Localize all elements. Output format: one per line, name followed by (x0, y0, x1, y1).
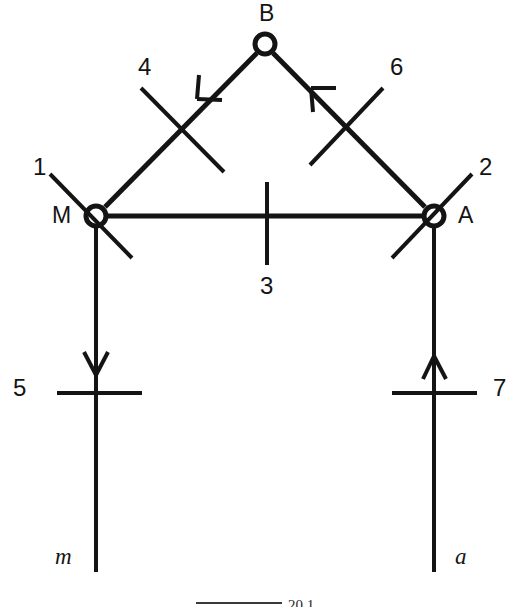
node-label-A: A (458, 204, 473, 227)
node-label-M: M (52, 204, 71, 227)
caption-rule (196, 602, 282, 604)
link-label-4: 4 (138, 55, 151, 79)
link-label-7: 7 (493, 376, 506, 400)
link-label-2: 2 (479, 155, 492, 179)
figure-canvas: B M A 1 2 3 4 5 6 7 m a 20.1 (0, 0, 522, 607)
arrowhead-4 (197, 75, 222, 100)
node-label-B: B (259, 2, 274, 25)
link-label-5: 5 (13, 376, 26, 400)
variable-label-a: a (455, 545, 467, 568)
caption-text: 20.1 (288, 598, 314, 607)
variable-label-m: m (55, 545, 72, 568)
arrowhead-6 (311, 88, 336, 112)
link-label-6: 6 (390, 55, 403, 79)
link-label-1: 1 (33, 155, 46, 179)
linkage-diagram-svg (0, 0, 522, 607)
link-label-3: 3 (260, 274, 273, 298)
node-B-circle (255, 34, 275, 54)
